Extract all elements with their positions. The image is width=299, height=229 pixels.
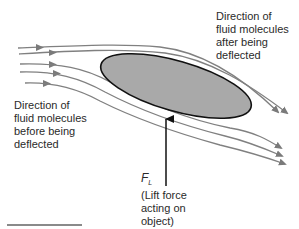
label-line: deflected [216, 49, 289, 62]
lift-symbol: FL [141, 172, 187, 189]
label-line: object) [141, 215, 187, 228]
label-after-deflection: Direction of fluid molecules after being… [216, 10, 289, 62]
arrowhead-icon [36, 44, 44, 51]
label-line: acting on [141, 202, 187, 215]
label-lift-force: FL (Lift force acting on object) [141, 172, 187, 228]
label-line: Direction of [14, 99, 87, 112]
label-line: (Lift force [141, 189, 187, 202]
label-line: Direction of [216, 10, 289, 23]
lift-symbol-subscript: L [148, 179, 152, 186]
label-line: deflected [14, 138, 87, 151]
label-before-deflection: Direction of fluid molecules before bein… [14, 99, 87, 151]
label-line: after being [216, 36, 289, 49]
label-line: fluid molecules [14, 112, 87, 125]
arrowhead-icon [49, 50, 57, 57]
label-line: fluid molecules [216, 23, 289, 36]
label-line: before being [14, 125, 87, 138]
